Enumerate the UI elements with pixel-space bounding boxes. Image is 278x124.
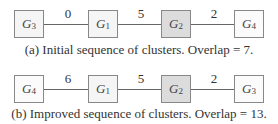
node-subscript: 4 [251, 21, 256, 31]
cluster-node: G3 [14, 10, 44, 38]
edge [44, 89, 88, 90]
node-label: G [22, 81, 31, 97]
node-label: G [169, 16, 178, 32]
node-subscript: 3 [251, 86, 256, 96]
cluster-node: G2 [161, 10, 191, 38]
edge [191, 89, 234, 90]
cluster-node: G1 [88, 75, 118, 103]
node-label: G [96, 81, 105, 97]
edge-weight: 5 [131, 71, 151, 87]
node-label: G [242, 16, 251, 32]
edge-weight: 6 [58, 71, 78, 87]
node-subscript: 2 [178, 21, 183, 31]
node-label: G [169, 81, 178, 97]
edge [118, 89, 161, 90]
cluster-node: G4 [14, 75, 44, 103]
node-subscript: 4 [31, 86, 36, 96]
edge-weight: 0 [58, 6, 78, 22]
caption-a: (a) Initial sequence of clusters. Overla… [0, 42, 278, 58]
node-label: G [22, 16, 31, 32]
node-subscript: 1 [105, 86, 110, 96]
caption-b: (b) Improved sequence of clusters. Overl… [0, 106, 278, 122]
edge-weight: 5 [131, 6, 151, 22]
cluster-node: G2 [161, 75, 191, 103]
node-label: G [242, 81, 251, 97]
edge [118, 24, 161, 25]
edge-weight: 2 [204, 71, 224, 87]
sequence-b: G4 G1 G2 G3 6 5 2 [0, 75, 278, 105]
edge-weight: 2 [204, 6, 224, 22]
edge [191, 24, 234, 25]
cluster-node: G4 [234, 10, 264, 38]
node-label: G [96, 16, 105, 32]
cluster-node: G3 [234, 75, 264, 103]
node-subscript: 1 [105, 21, 110, 31]
sequence-a: G3 G1 G2 G4 0 5 2 [0, 10, 278, 40]
edge [44, 24, 88, 25]
cluster-node: G1 [88, 10, 118, 38]
node-subscript: 2 [178, 86, 183, 96]
node-subscript: 3 [31, 21, 36, 31]
